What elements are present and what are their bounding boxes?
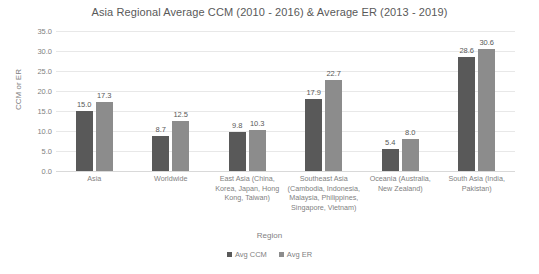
bar-column: 8.0: [402, 31, 419, 171]
bar-column: 9.8: [229, 31, 246, 171]
y-axis-tick-label: 5.0: [18, 147, 52, 156]
bar-value-label: 30.6: [479, 38, 494, 47]
y-axis-tick-label: 35.0: [18, 27, 52, 36]
bar[interactable]: [382, 149, 399, 171]
bar-group: 8.712.5: [133, 31, 210, 171]
bar-column: 30.6: [478, 31, 495, 171]
bar-group: 15.017.3: [56, 31, 133, 171]
legend-label: Avg ER: [287, 250, 312, 259]
bar-column: 28.6: [458, 31, 475, 171]
bar-group: 28.630.6: [439, 31, 516, 171]
bar-group: 5.48.0: [362, 31, 439, 171]
bar-groups: 15.017.38.712.59.810.317.922.75.48.028.6…: [56, 31, 515, 171]
x-axis-category-label: East Asia (China, Korea, Japan, Hong Kon…: [209, 174, 286, 212]
bar-value-label: 17.3: [97, 91, 112, 100]
gridline: [56, 171, 515, 172]
bar-value-label: 8.0: [405, 128, 415, 137]
bar-column: 12.5: [172, 31, 189, 171]
bar-group: 17.922.7: [286, 31, 363, 171]
x-axis-category-label: Asia: [56, 174, 133, 212]
bar-column: 17.9: [305, 31, 322, 171]
legend-label: Avg CCM: [235, 250, 267, 259]
bar-value-label: 15.0: [77, 100, 92, 109]
bar-column: 22.7: [325, 31, 342, 171]
bar-chart: Asia Regional Average CCM (2010 - 2016) …: [0, 0, 539, 274]
legend-swatch-icon: [227, 252, 232, 257]
bar[interactable]: [458, 57, 475, 171]
bar[interactable]: [152, 136, 169, 171]
bar-value-label: 5.4: [385, 138, 395, 147]
y-axis-tick-label: 0.0: [18, 167, 52, 176]
chart-title: Asia Regional Average CCM (2010 - 2016) …: [0, 6, 539, 18]
bar[interactable]: [229, 132, 246, 171]
bar-column: 5.4: [382, 31, 399, 171]
bar-group: 9.810.3: [209, 31, 286, 171]
bar-value-label: 10.3: [250, 119, 265, 128]
legend-item[interactable]: Avg ER: [279, 250, 312, 259]
bar-column: 8.7: [152, 31, 169, 171]
x-axis-category-labels: AsiaWorldwideEast Asia (China, Korea, Ja…: [56, 174, 515, 212]
bar[interactable]: [478, 49, 495, 171]
y-axis-tick-labels: 35.030.025.020.015.010.05.00.0: [18, 31, 52, 171]
x-axis-category-label: Oceania (Australia, New Zealand): [362, 174, 439, 212]
bar-column: 15.0: [76, 31, 93, 171]
bar-value-label: 17.9: [306, 88, 321, 97]
bar-value-label: 12.5: [173, 110, 188, 119]
x-axis-category-label: Worldwide: [133, 174, 210, 212]
y-axis-tick-label: 15.0: [18, 107, 52, 116]
x-axis-title: Region: [0, 231, 539, 240]
bar-value-label: 9.8: [232, 121, 242, 130]
y-axis-tick-label: 10.0: [18, 127, 52, 136]
bar[interactable]: [402, 139, 419, 171]
bar-value-label: 28.6: [459, 46, 474, 55]
legend: Avg CCMAvg ER: [0, 250, 539, 259]
bar[interactable]: [249, 130, 266, 171]
legend-item[interactable]: Avg CCM: [227, 250, 267, 259]
bar-value-label: 8.7: [156, 125, 166, 134]
bar[interactable]: [172, 121, 189, 171]
bar[interactable]: [76, 111, 93, 171]
legend-swatch-icon: [279, 252, 284, 257]
bar-column: 17.3: [96, 31, 113, 171]
bar-column: 10.3: [249, 31, 266, 171]
bar[interactable]: [305, 99, 322, 171]
bar[interactable]: [96, 102, 113, 171]
x-axis-category-label: South Asia (India, Pakistan): [439, 174, 516, 212]
bar[interactable]: [325, 80, 342, 171]
bar-value-label: 22.7: [326, 69, 341, 78]
plot-area: 15.017.38.712.59.810.317.922.75.48.028.6…: [56, 31, 515, 171]
x-axis-category-label: Southeast Asia (Cambodia, Indonesia, Mal…: [286, 174, 363, 212]
y-axis-tick-label: 30.0: [18, 47, 52, 56]
y-axis-tick-label: 20.0: [18, 87, 52, 96]
y-axis-tick-label: 25.0: [18, 67, 52, 76]
